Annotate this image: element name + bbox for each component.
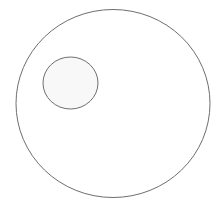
inner-circle (43, 57, 98, 109)
outer-circle (16, 10, 210, 198)
diagram-canvas (0, 0, 221, 210)
